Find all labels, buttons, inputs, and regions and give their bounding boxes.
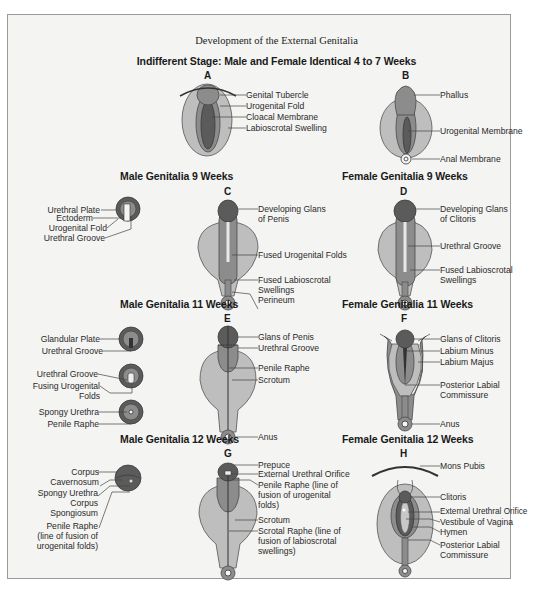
- label-line-1: Fusing Urogenital: [33, 381, 100, 391]
- label-posterior-labial-commissure-h: Posterior LabialCommissure: [440, 540, 500, 560]
- figure-f-female-11-weeks: [380, 330, 440, 431]
- label-line-2: Commissure: [440, 550, 488, 560]
- label-line-1: Posterior Labial: [440, 540, 500, 550]
- label-labioscrotal-swelling: Labioscrotal Swelling: [246, 123, 327, 133]
- label-corpus-spongiosum: CorpusSpongiosum: [50, 498, 98, 518]
- label-developing-glans-clitoris: Developing Glansof Clitoris: [440, 204, 508, 224]
- label-line-1: Developing Glans: [258, 204, 326, 214]
- label-labium-minus: Labium Minus: [440, 346, 494, 356]
- label-line-3: folds): [258, 500, 279, 510]
- label-external-urethral-orifice-g: External Urethral Orifice: [258, 469, 350, 479]
- label-line-2: Commissure: [440, 390, 488, 400]
- figure-male11-cross-sections: [98, 327, 143, 424]
- heading-male-9-weeks: Male Genitalia 9 Weeks: [120, 170, 233, 182]
- label-phallus: Phallus: [440, 90, 468, 100]
- label-line-2: Swellings: [258, 285, 294, 295]
- label-line-3: swellings): [258, 546, 296, 556]
- label-line-3: urogenital folds): [37, 541, 98, 551]
- figure-a-indifferent-stage: [180, 84, 246, 156]
- figure-letter-h: H: [400, 448, 407, 459]
- label-mons-pubis: Mons Pubis: [440, 461, 485, 471]
- figure-letter-b: B: [402, 70, 409, 81]
- label-line-2: Spongiosum: [50, 508, 98, 518]
- label-glans-of-penis: Glans of Penis: [258, 332, 314, 342]
- label-urogenital-fold-cs: Urogenital Fold: [49, 223, 107, 233]
- label-urogenital-fold: Urogenital Fold: [246, 101, 304, 111]
- heading-female-9-weeks: Female Genitalia 9 Weeks: [342, 170, 468, 182]
- label-scrotum-g: Scrotum: [258, 515, 290, 525]
- label-penile-raphe-g-cs: Penile Raphe(line of fusion ofurogenital…: [37, 521, 98, 551]
- figure-letter-c: C: [224, 186, 231, 197]
- heading-male-12-weeks: Male Genitalia 12 Weeks: [120, 433, 239, 445]
- label-anal-membrane: Anal Membrane: [440, 154, 501, 164]
- label-posterior-labial-commissure-f: Posterior LabialCommissure: [440, 380, 500, 400]
- label-line-2: Swellings: [440, 275, 476, 285]
- label-spongy-urethra-e: Spongy Urethra: [39, 407, 99, 417]
- label-scrotum-e: Scrotum: [258, 375, 290, 385]
- label-clitoris: Clitoris: [440, 492, 466, 502]
- label-line-1: Penile Raphe: [46, 521, 98, 531]
- heading-female-12-weeks: Female Genitalia 12 Weeks: [342, 433, 474, 445]
- label-line-2: of Clitoris: [440, 214, 476, 224]
- figure-e-male-11-weeks: [200, 326, 258, 444]
- label-urethral-groove-e: Urethral Groove: [258, 343, 319, 353]
- figure-c-male-9-weeks: [198, 200, 258, 310]
- label-urethral-groove-e2: Urethral Groove: [37, 369, 98, 379]
- label-line-2: fusion of urogenital: [258, 490, 331, 500]
- label-glans-of-clitoris: Glans of Clitoris: [440, 334, 501, 344]
- label-labium-majus: Labium Majus: [440, 357, 494, 367]
- label-developing-glans-penis: Developing Glansof Penis: [258, 204, 326, 224]
- heading-male-11-weeks: Male Genitalia 11 Weeks: [120, 298, 238, 310]
- label-penile-raphe-g: Penile Raphe (line offusion of urogenita…: [258, 480, 338, 510]
- label-line-1: Fused Labioscrotal: [440, 265, 513, 275]
- label-fused-labioscrotal-swellings-d: Fused LabioscrotalSwellings: [440, 265, 513, 285]
- figure-letter-d: D: [400, 186, 407, 197]
- label-urogenital-membrane: Urogenital Membrane: [440, 126, 523, 136]
- label-scrotal-raphe: Scrotal Raphe (line offusion of labioscr…: [258, 526, 341, 556]
- label-urethral-groove-e1: Urethral Groove: [42, 346, 103, 356]
- figure-d-female-9-weeks: [378, 200, 440, 310]
- label-line-1: Corpus: [71, 467, 99, 477]
- figure-letter-g: G: [224, 448, 232, 459]
- figure-g-male-12-weeks: [199, 463, 258, 580]
- figure-h-female-12-weeks: [372, 466, 440, 577]
- label-hymen: Hymen: [440, 527, 467, 537]
- label-penile-raphe-e-cs: Penile Raphe: [47, 419, 99, 429]
- label-spongy-urethra-g: Spongy Urethra: [38, 488, 98, 498]
- figure-letter-f: F: [401, 313, 407, 324]
- label-perineum: Perineum: [258, 295, 295, 305]
- label-line-1: Corpus: [70, 498, 98, 508]
- label-line-1: Posterior Labial: [440, 380, 500, 390]
- label-corpus-cavernosum: CorpusCavernosum: [50, 467, 99, 487]
- label-line-1: Fused Labioscrotal: [258, 275, 331, 285]
- label-penile-raphe-e: Penile Raphe: [258, 363, 310, 373]
- figure-b-indifferent-stage: [380, 86, 440, 164]
- figure-letter-a: A: [204, 70, 211, 81]
- label-external-urethral-orifice-h: External Urethral Orifice: [440, 507, 527, 517]
- figure-letter-e: E: [224, 313, 231, 324]
- label-line-1: Developing Glans: [440, 204, 508, 214]
- label-line-1: Scrotal Raphe (line of: [258, 526, 341, 536]
- label-line-2: of Penis: [258, 214, 289, 224]
- label-ectoderm: Ectoderm: [56, 213, 93, 223]
- label-fused-urogenital-folds: Fused Urogenital Folds: [258, 250, 347, 260]
- label-line-2: fusion of labioscrotal: [258, 536, 336, 546]
- label-line-2: Cavernosum: [50, 477, 99, 487]
- label-fused-labioscrotal-swellings-c: Fused LabioscrotalSwellings: [258, 275, 331, 295]
- label-line-1: Penile Raphe (line of: [258, 480, 338, 490]
- label-line-2: (line of fusion of: [37, 531, 98, 541]
- label-anus-e: Anus: [258, 432, 278, 442]
- label-urethral-groove-cs: Urethral Groove: [44, 233, 105, 243]
- heading-indifferent-stage: Indifferent Stage: Male and Female Ident…: [0, 55, 553, 67]
- label-cloacal-membrane: Cloacal Membrane: [246, 112, 318, 122]
- heading-female-11-weeks: Female Genitalia 11 Weeks: [342, 298, 473, 310]
- figure-male12-cross-section: [98, 465, 141, 528]
- label-fusing-urogenital-folds: Fusing UrogenitalFolds: [33, 381, 100, 401]
- label-anus-f: Anus: [440, 419, 460, 429]
- label-urethral-groove-d: Urethral Groove: [440, 241, 501, 251]
- label-glandular-plate: Glandular Plate: [41, 334, 100, 344]
- label-genital-tubercle: Genital Tubercle: [246, 90, 309, 100]
- label-vestibule-of-vagina: Vestibule of Vagina: [440, 517, 513, 527]
- label-line-2: Folds: [79, 391, 100, 401]
